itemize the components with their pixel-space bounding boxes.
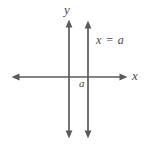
y-axis-label: y — [64, 3, 70, 16]
y-axis-up-arrow-icon — [66, 20, 73, 28]
x-axis-label: x — [132, 69, 138, 82]
vertical-line-up-arrow-icon — [85, 21, 92, 29]
vertical-line-down-arrow-icon — [85, 131, 92, 139]
x-axis-right-arrow-icon — [120, 74, 128, 81]
x-axis-left-arrow-icon — [12, 74, 20, 81]
x-intercept-label-a: a — [79, 78, 85, 89]
y-axis-down-arrow-icon — [66, 131, 73, 139]
coordinate-plane-graphic — [0, 0, 146, 146]
math-figure-vertical-line: y x x = a a — [0, 0, 146, 146]
line-equation-label: x = a — [96, 34, 124, 46]
